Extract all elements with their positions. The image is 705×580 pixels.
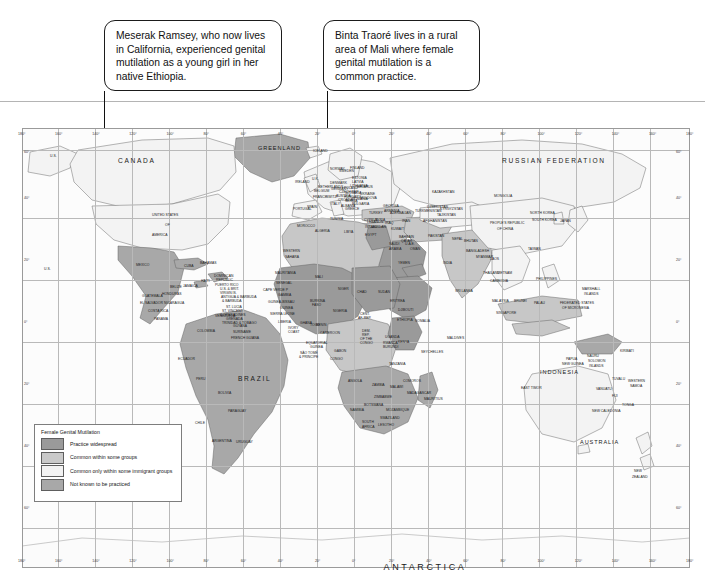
longitude-tick: 0° (352, 132, 355, 136)
longitude-tick: 180° (18, 132, 25, 136)
longitude-tick: 60° (241, 132, 246, 136)
longitude-tick: 60° (463, 559, 468, 563)
legend-item: Common within some groups (41, 452, 176, 464)
longitude-tick: 100° (538, 132, 545, 136)
longitude-tick: 40° (426, 132, 431, 136)
longitude-tick: 180° (686, 132, 693, 136)
legend-title: Female Genital Mutilation (41, 429, 176, 435)
landmass-layer: .wide{fill:#9a9a9a;stroke:#5c5c5c;stroke… (22, 128, 690, 568)
legend-item: Practice widespread (41, 438, 176, 450)
legend-item: Not known to be practiced (41, 479, 176, 491)
longitude-tick: 100° (166, 559, 173, 563)
longitude-tick: 80° (204, 559, 209, 563)
longitude-tick: 140° (92, 132, 99, 136)
latitude-tick: 20° (676, 258, 681, 262)
longitude-tick: 180° (18, 559, 25, 563)
legend-swatch (41, 452, 64, 464)
longitude-tick: 80° (204, 132, 209, 136)
longitude-tick: 100° (538, 559, 545, 563)
longitude-tick: 120° (575, 132, 582, 136)
latitude-tick: 20° (676, 382, 681, 386)
longitude-tick: 100° (166, 132, 173, 136)
latitude-tick: 60° (24, 506, 29, 510)
longitude-tick: 140° (612, 132, 619, 136)
latitude-tick: 0° (24, 320, 27, 324)
legend-swatch (41, 479, 64, 491)
world-map: .wide{fill:#9a9a9a;stroke:#5c5c5c;stroke… (22, 128, 690, 568)
longitude-tick: 20° (315, 559, 320, 563)
latitude-tick: 60° (676, 506, 681, 510)
longitude-tick: 40° (278, 559, 283, 563)
legend-item: Common only within some immigrant groups (41, 465, 176, 477)
longitude-tick: 80° (500, 132, 505, 136)
longitude-tick: 20° (389, 132, 394, 136)
longitude-tick: 120° (129, 132, 136, 136)
latitude-tick: 40° (24, 196, 29, 200)
legend-label: Practice widespread (70, 441, 117, 447)
legend-rows: Practice widespreadCommon within some gr… (41, 438, 176, 491)
longitude-tick: 60° (241, 559, 246, 563)
longitude-tick: 160° (649, 132, 656, 136)
longitude-tick: 60° (463, 132, 468, 136)
latitude-tick: 0° (676, 320, 679, 324)
longitude-tick: 80° (500, 559, 505, 563)
longitude-tick: 0° (352, 559, 355, 563)
latitude-tick: 40° (676, 196, 681, 200)
screenshot-root: Meserak Ramsey, who now lives in Califor… (0, 0, 705, 580)
legend-label: Common only within some immigrant groups (70, 468, 172, 474)
latitude-tick: 20° (24, 258, 29, 262)
longitude-tick: 160° (649, 559, 656, 563)
longitude-tick: 120° (575, 559, 582, 563)
longitude-tick: 120° (129, 559, 136, 563)
legend-label: Common within some groups (70, 454, 137, 460)
legend-label: Not known to be practiced (70, 481, 130, 487)
longitude-tick: 140° (612, 559, 619, 563)
callout-meserak-ramsey: Meserak Ramsey, who now lives in Califor… (104, 20, 282, 91)
callout-binta-traore: Binta Traoré lives in a rural area of Ma… (323, 20, 480, 91)
longitude-tick: 140° (92, 559, 99, 563)
longitude-tick: 20° (315, 132, 320, 136)
latitude-tick: 60° (24, 150, 29, 154)
latitude-tick: 60° (676, 150, 681, 154)
header-divider (0, 101, 705, 102)
longitude-tick: 20° (389, 559, 394, 563)
latitude-tick: 20° (24, 382, 29, 386)
longitude-tick: 160° (55, 559, 62, 563)
longitude-tick: 160° (55, 132, 62, 136)
map-legend: Female Genital Mutilation Practice wides… (34, 424, 182, 502)
latitude-tick: 40° (676, 444, 681, 448)
longitude-tick: 180° (686, 559, 693, 563)
longitude-tick: 40° (278, 132, 283, 136)
latitude-tick: 40° (24, 444, 29, 448)
legend-swatch (41, 465, 64, 477)
callout-text: Meserak Ramsey, who now lives in Califor… (116, 30, 265, 82)
legend-swatch (41, 438, 64, 450)
longitude-tick: 40° (426, 559, 431, 563)
callout-text: Binta Traoré lives in a rural area of Ma… (335, 30, 457, 82)
